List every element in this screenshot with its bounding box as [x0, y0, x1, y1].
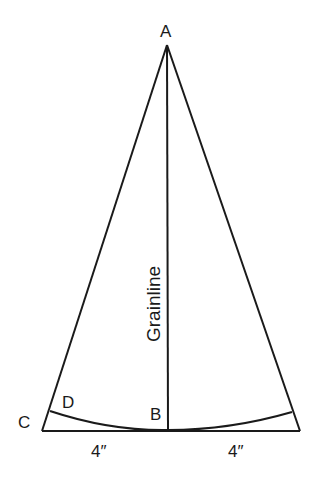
label-d: D — [62, 393, 74, 412]
grainline-line — [167, 45, 168, 431]
label-c: C — [18, 413, 30, 432]
left-measurement: 4″ — [91, 442, 106, 461]
label-a: A — [160, 22, 172, 41]
right-side-line — [167, 45, 300, 431]
left-side-line — [42, 45, 167, 431]
right-measurement: 4″ — [228, 442, 243, 461]
grainline-label: Grainline — [143, 266, 164, 342]
hem-arc — [50, 411, 292, 430]
pattern-wedge-diagram: A B C D Grainline 4″ 4″ — [0, 0, 324, 489]
label-b: B — [150, 405, 161, 424]
